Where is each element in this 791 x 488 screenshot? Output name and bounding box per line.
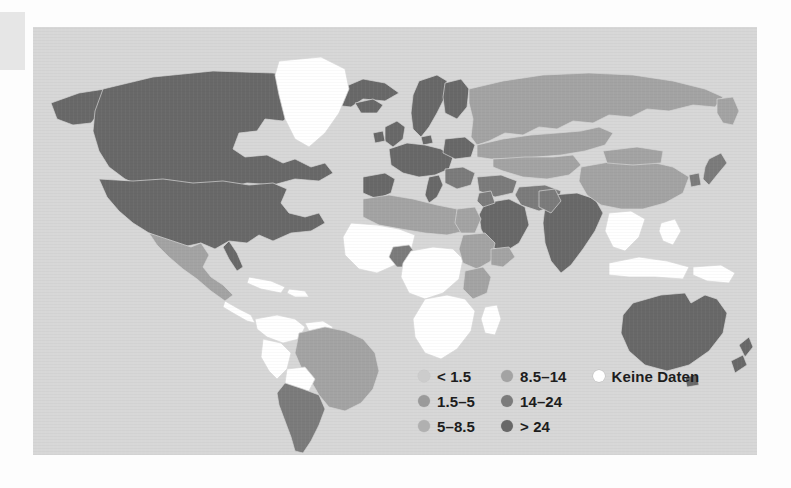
- legend-item-lt-1-5[interactable]: < 1.5: [418, 365, 475, 387]
- legend-label-5-8-5: 5–8.5: [437, 418, 475, 435]
- region-korea: [689, 173, 701, 187]
- legend-item-no-data[interactable]: Keine Daten: [593, 365, 700, 387]
- legend-label-no-data: Keine Daten: [612, 368, 700, 385]
- legend-item-8-5-14[interactable]: 8.5–14: [501, 365, 566, 387]
- legend-label-gt-24: > 24: [520, 418, 550, 435]
- page-margin-artifact: [0, 12, 25, 70]
- region-denmark: [421, 135, 433, 145]
- legend-label-14-24: 14–24: [520, 393, 562, 410]
- bleed-through-text-bottom: [18, 462, 791, 476]
- legend-item-14-24[interactable]: 14–24: [501, 390, 566, 412]
- legend-label-8-5-14: 8.5–14: [520, 368, 566, 385]
- region-ireland: [373, 131, 385, 143]
- legend-swatch-1-5-5: [418, 395, 430, 407]
- legend-swatch-no-data: [593, 370, 605, 382]
- legend-spacer-b: [593, 415, 700, 437]
- legend-label-1-5-5: 1.5–5: [437, 393, 475, 410]
- map-legend: < 1.5 8.5–14 Keine Daten 1.5–5 14–24: [418, 365, 699, 437]
- legend-label-lt-1-5: < 1.5: [437, 368, 471, 385]
- legend-item-5-8-5[interactable]: 5–8.5: [418, 415, 475, 437]
- legend-swatch-gt-24: [501, 420, 513, 432]
- legend-spacer-a: [593, 390, 700, 412]
- legend-item-1-5-5[interactable]: 1.5–5: [418, 390, 475, 412]
- legend-item-gt-24[interactable]: > 24: [501, 415, 566, 437]
- legend-swatch-5-8-5: [418, 420, 430, 432]
- legend-swatch-14-24: [501, 395, 513, 407]
- region-mongolia: [603, 147, 663, 165]
- legend-swatch-lt-1-5: [418, 370, 430, 382]
- scanned-page: < 1.5 8.5–14 Keine Daten 1.5–5 14–24: [0, 0, 791, 488]
- legend-swatch-8-5-14: [501, 370, 513, 382]
- world-map-figure: < 1.5 8.5–14 Keine Daten 1.5–5 14–24: [33, 27, 757, 455]
